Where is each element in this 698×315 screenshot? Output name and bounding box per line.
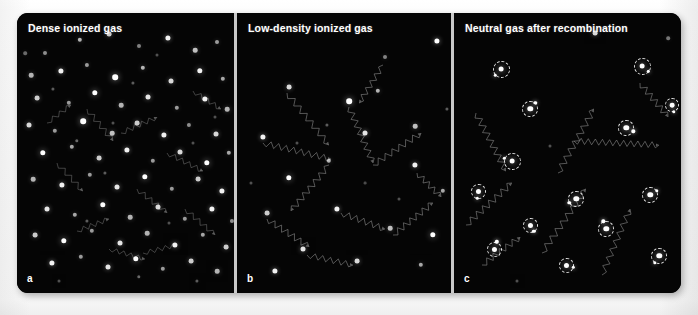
panel-c-letter: c — [464, 273, 470, 284]
photon-path — [558, 109, 594, 173]
ionized-particle — [106, 265, 111, 270]
photon-arrowhead — [106, 219, 109, 222]
photon-path — [640, 83, 668, 117]
ionized-particle — [383, 55, 387, 59]
panel-a-letter: a — [27, 273, 33, 284]
ionized-particle — [33, 233, 38, 238]
ionized-particle — [112, 74, 118, 80]
figure-plate: Dense ionized gas a Low-density ionized … — [17, 13, 681, 293]
photon-path — [185, 209, 215, 235]
photon-arrowhead — [627, 209, 630, 212]
neutral-atom — [665, 98, 679, 112]
ionized-particle — [97, 156, 102, 161]
neutral-atom — [598, 221, 614, 237]
ionized-particle — [23, 51, 27, 55]
ionized-particle — [364, 182, 367, 185]
ionized-particle — [215, 40, 219, 44]
photon-path — [87, 109, 113, 141]
ionized-particle — [193, 48, 198, 53]
photon-arrowhead — [218, 106, 221, 109]
photon-path — [393, 203, 433, 235]
atom-nucleus — [639, 63, 645, 69]
free-particle — [666, 36, 670, 40]
ionized-particle — [224, 245, 229, 250]
ionized-particle — [146, 95, 151, 100]
panel-c-particle-layer — [454, 13, 681, 293]
ionized-particle — [355, 259, 360, 264]
orbiting-electron — [647, 70, 650, 73]
ionized-particle — [118, 241, 123, 246]
photon-path — [47, 105, 71, 123]
neutral-atom — [559, 258, 574, 273]
photon-path — [263, 142, 331, 161]
photon-path — [341, 213, 385, 231]
ionized-particle — [112, 122, 115, 125]
ionized-particle — [296, 142, 299, 145]
panel-c-title: Neutral gas after recombination — [465, 22, 628, 34]
ionized-particle — [196, 177, 201, 182]
ionized-particle — [35, 96, 40, 101]
ionized-particle — [214, 116, 217, 119]
photon-path — [574, 138, 659, 148]
ionized-particle — [250, 182, 253, 185]
ionized-particle — [169, 79, 174, 84]
neutral-atom — [568, 191, 584, 207]
ionized-particle — [45, 207, 50, 212]
ionized-particle — [214, 132, 219, 137]
ionized-particle — [58, 280, 61, 283]
atom-nucleus — [498, 66, 504, 72]
photon-path — [137, 189, 167, 213]
photon-path — [291, 165, 329, 211]
ionized-particle — [31, 177, 36, 182]
ionized-particle — [398, 198, 401, 201]
photon-path — [167, 153, 203, 171]
neutral-atom — [493, 61, 510, 78]
figure-root: Dense ionized gas a Low-density ionized … — [0, 0, 698, 315]
panel-b-particle-layer — [237, 13, 451, 293]
ionized-particle — [145, 231, 150, 236]
ionized-particle — [27, 123, 32, 128]
photon-path — [307, 254, 353, 267]
ionized-particle — [156, 54, 159, 57]
photon-path — [417, 173, 441, 197]
panel-b-letter: b — [247, 273, 253, 284]
neutral-atom — [634, 58, 651, 75]
ionized-particle — [287, 85, 292, 90]
photon-arrowhead — [382, 227, 385, 230]
ionized-particle — [110, 131, 115, 136]
neutral-atom — [504, 153, 521, 170]
photon-path — [373, 133, 421, 165]
ionized-particle — [388, 226, 393, 231]
ionized-particle — [80, 118, 86, 124]
photon-path — [109, 249, 145, 260]
photon-path — [602, 209, 631, 275]
ionized-particle — [43, 51, 47, 55]
free-particle — [549, 145, 552, 148]
neutral-atom — [522, 101, 538, 117]
ionized-particle — [168, 222, 171, 225]
neutral-atom — [471, 184, 486, 199]
ionized-particle — [119, 103, 124, 108]
photon-arrowhead — [200, 168, 203, 171]
panel-b: Low-density ionized gas b — [237, 13, 451, 293]
atom-nucleus — [670, 103, 675, 108]
panel-a-photon-layer — [17, 13, 234, 293]
neutral-atom — [523, 218, 538, 233]
panel-b-photon-layer — [237, 13, 451, 293]
ionized-particle — [192, 142, 195, 145]
neutral-atom — [651, 248, 667, 264]
ionized-particle — [225, 107, 230, 112]
photon-path — [359, 65, 383, 103]
ionized-particle — [189, 259, 194, 264]
ionized-particle — [346, 98, 352, 104]
neutral-atom — [487, 242, 502, 257]
panel-a: Dense ionized gas a — [17, 13, 234, 293]
panel-b-title: Low-density ionized gas — [248, 22, 373, 34]
ionized-particle — [115, 185, 120, 190]
neutral-atom — [618, 120, 634, 136]
atom-nucleus — [509, 158, 515, 164]
panel-c: Neutral gas after recombination c — [454, 13, 681, 293]
free-particle — [516, 280, 519, 283]
photon-arrowhead — [370, 160, 373, 163]
ionized-particle — [363, 131, 368, 136]
